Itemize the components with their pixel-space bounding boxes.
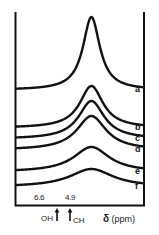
trace-label-c: c bbox=[135, 133, 140, 143]
spectra-plot-canvas bbox=[0, 0, 159, 235]
assignment-label-ch: CH bbox=[73, 216, 85, 225]
spectra-traces bbox=[16, 17, 144, 185]
trace-label-f: f bbox=[135, 181, 138, 191]
spectrum-trace-a bbox=[16, 17, 144, 89]
nmr-spectra-figure: 6.6 4.9 a b c d e f OH CH δ (ppm) bbox=[0, 0, 159, 235]
trace-label-b: b bbox=[135, 122, 141, 132]
trace-label-a: a bbox=[135, 84, 140, 94]
spectrum-trace-c bbox=[16, 101, 144, 137]
trace-label-e: e bbox=[135, 166, 140, 176]
ch-arrow-icon bbox=[68, 208, 73, 221]
spectrum-trace-b bbox=[16, 86, 144, 127]
assignment-label-oh: OH bbox=[41, 214, 53, 223]
spectrum-trace-f bbox=[16, 169, 144, 185]
delta-symbol: δ bbox=[103, 213, 109, 224]
spectrum-trace-e bbox=[16, 147, 144, 170]
x-axis-title: δ (ppm) bbox=[103, 213, 135, 224]
tick-label-4-9: 4.9 bbox=[65, 193, 75, 202]
tick-label-6-6: 6.6 bbox=[34, 193, 44, 202]
ppm-units: (ppm) bbox=[112, 214, 136, 224]
oh-arrow-icon bbox=[55, 208, 60, 221]
trace-label-d: d bbox=[135, 144, 141, 154]
